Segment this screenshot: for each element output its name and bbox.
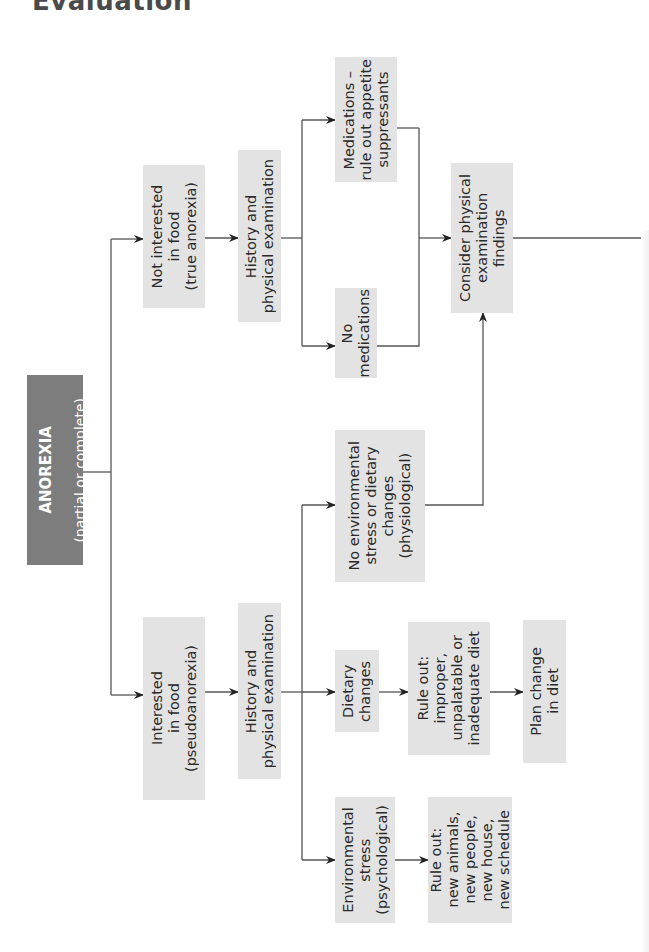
page-edge	[641, 230, 649, 952]
node-label: No environmental stress or dietary chang…	[346, 441, 414, 571]
node-plan-change-diet: Plan change in diet	[523, 620, 566, 763]
node-label: Rule out: improper, unpalatable or inade…	[415, 631, 483, 746]
node-label: Medications – rule out appetite suppress…	[341, 59, 392, 181]
node-history-exam-pseudo: History and physical examination	[238, 603, 281, 779]
node-label: Plan change in diet	[528, 647, 562, 736]
node-interested-in-food: Interested in food (pseudoanorexia)	[143, 617, 205, 800]
node-history-exam-true: History and physical examination	[238, 150, 281, 322]
node-rule-out-environment: Rule out: new animals, new people, new h…	[428, 797, 512, 923]
node-label: Not interested in food (true anorexia)	[149, 182, 200, 290]
node-consider-physical-exam: Consider physical examination findings	[451, 163, 513, 313]
node-label: Interested in food (pseudoanorexia)	[149, 645, 200, 772]
node-label: Consider physical examination findings	[457, 174, 508, 302]
node-anorexia-label: ANOREXIA (partial or complete)	[21, 398, 89, 543]
node-no-environmental-stress: No environmental stress or dietary chang…	[335, 430, 425, 582]
node-label: History and physical examination	[243, 159, 277, 313]
node-label: Rule out: new animals, new people, new h…	[428, 810, 513, 910]
node-anorexia: ANOREXIA (partial or complete)	[27, 375, 83, 565]
node-anorexia-title: ANOREXIA	[37, 426, 55, 513]
flowchart-connectors	[0, 0, 649, 952]
node-medications: Medications – rule out appetite suppress…	[335, 57, 397, 182]
node-rule-out-diet: Rule out: improper, unpalatable or inade…	[408, 622, 490, 755]
node-label: No medications	[339, 289, 373, 377]
node-label: Environmental stress (psychological)	[340, 805, 391, 915]
node-anorexia-subtitle: (partial or complete)	[72, 398, 88, 543]
node-not-interested-in-food: Not interested in food (true anorexia)	[143, 165, 205, 308]
node-label: History and physical examination	[243, 614, 277, 768]
node-dietary-changes: Dietary changes	[335, 650, 379, 732]
node-no-medications: No medications	[335, 288, 377, 378]
node-environmental-stress: Environmental stress (psychological)	[335, 797, 395, 923]
node-label: Dietary changes	[340, 661, 374, 722]
